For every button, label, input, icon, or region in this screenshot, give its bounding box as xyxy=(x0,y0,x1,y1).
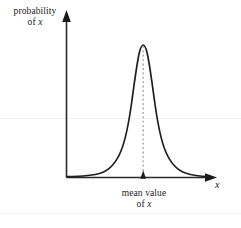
mean-value-label-line2-prefix: of xyxy=(137,199,148,209)
y-axis-label-variable: x xyxy=(38,17,42,27)
y-axis-label-line2: of x xyxy=(8,17,62,28)
y-axis-label-line2-prefix: of xyxy=(28,17,39,27)
mean-value-label-line2: of x xyxy=(103,199,185,210)
probability-distribution-figure: probability of x mean value of x x xyxy=(0,0,241,228)
mean-value-label-variable: x xyxy=(147,199,151,209)
mean-value-label: mean value of x xyxy=(103,188,185,209)
x-axis-label-variable: x xyxy=(215,179,220,190)
mean-marker-arrowhead-icon xyxy=(140,171,146,179)
y-axis-label: probability of x xyxy=(8,6,62,27)
y-axis-arrowhead-icon xyxy=(62,10,71,22)
x-axis-label: x xyxy=(215,180,220,191)
mean-value-label-line1: mean value xyxy=(122,188,167,198)
y-axis-label-line1: probability xyxy=(14,6,57,16)
gaussian-curve xyxy=(67,45,209,177)
